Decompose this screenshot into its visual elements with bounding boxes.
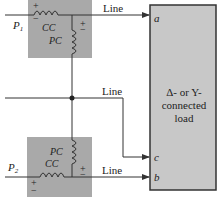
cc2-minus: − (31, 185, 37, 196)
junction-dot (70, 96, 75, 101)
p2-label: P2 (7, 161, 19, 175)
load-text-2: connected (162, 99, 207, 111)
two-wattmeter-diagram: + − P1 CC PC + − PC CC P2 + − + − Line L… (0, 0, 219, 215)
p1-label: P1 (12, 19, 23, 33)
pc1-label: PC (48, 35, 62, 46)
pc2-label: PC (49, 146, 63, 157)
load-text-1: Δ- or Y- (166, 86, 202, 98)
cc1-label: CC (42, 22, 56, 33)
pc1-minus: − (80, 24, 86, 35)
line-a-label: Line (103, 2, 123, 14)
pc2-minus: − (80, 169, 86, 180)
terminal-b: b (154, 171, 160, 183)
cc1-plus: + (33, 0, 39, 11)
load-text-3: load (175, 112, 194, 124)
cc1-minus: − (33, 13, 39, 24)
terminal-c: c (154, 151, 159, 163)
cc2-label: CC (45, 158, 59, 169)
terminal-a: a (154, 12, 160, 24)
line-c-label: Line (102, 85, 122, 97)
line-b-label: Line (102, 164, 122, 176)
